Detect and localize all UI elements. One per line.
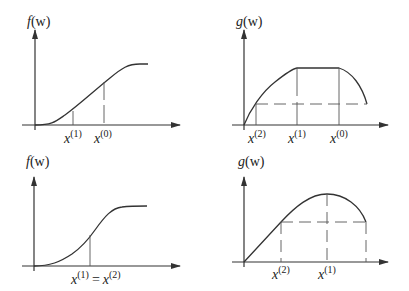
f-sigmoid-curve: [35, 64, 148, 125]
f-sigmoid-curve: [34, 206, 147, 266]
tick-x1: x(1): [317, 264, 336, 282]
tick-x0: x(0): [93, 128, 112, 146]
g-label: g(w): [236, 14, 263, 30]
panel-top-right-g: g(w) x(2) x(1) x(0): [232, 14, 388, 146]
f-label: f(w): [26, 154, 50, 170]
tick-x2: x(2): [271, 264, 290, 282]
g-curve: [244, 194, 366, 262]
tick-x0: x(0): [329, 128, 348, 146]
g-label: g(w): [238, 154, 265, 170]
f-label: f(w): [27, 14, 51, 30]
g-curve: [244, 68, 367, 125]
panel-bottom-right-g: g(w) x(2) x(1): [232, 154, 388, 282]
panel-bottom-left-f: f(w) x(1)=x(2): [22, 154, 180, 287]
tick-x1-eq-x2: x(1)=x(2): [70, 269, 121, 287]
diagram-canvas: f(w) x(1) x(0) g(w) x(2) x(1) x(0): [0, 0, 409, 291]
panel-top-left-f: f(w) x(1) x(0): [22, 14, 180, 146]
tick-x2: x(2): [247, 128, 266, 146]
tick-x1: x(1): [287, 128, 306, 146]
tick-x1: x(1): [63, 128, 82, 146]
